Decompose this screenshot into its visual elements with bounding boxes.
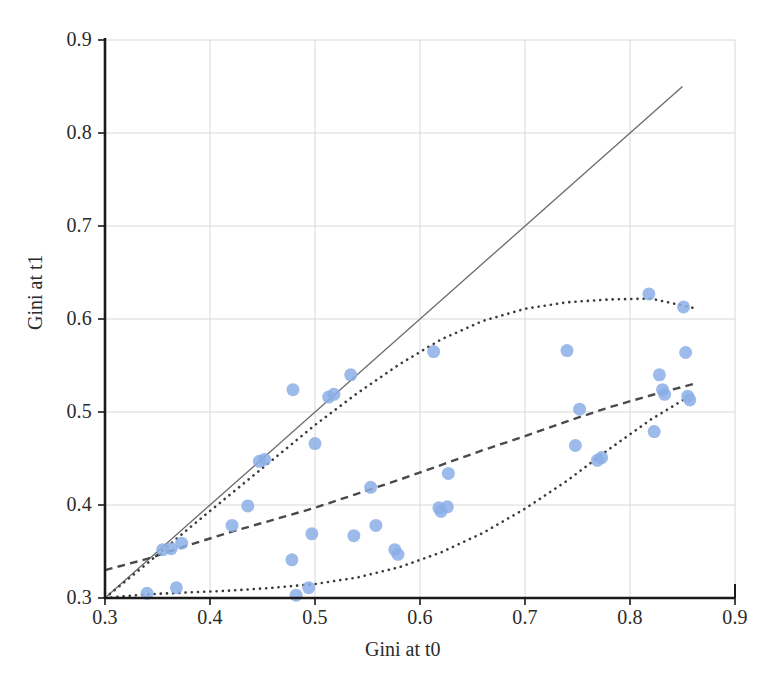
lower-band-curve (105, 397, 688, 598)
y-tick-label-4: 0.7 (40, 214, 92, 237)
x-axis-title: Gini at t0 (365, 638, 441, 661)
data-point (569, 439, 582, 452)
data-point (595, 451, 608, 464)
data-point (683, 393, 696, 406)
y-tick-label-3: 0.6 (40, 307, 92, 330)
data-point (369, 519, 382, 532)
data-point (573, 403, 586, 416)
data-point (679, 346, 692, 359)
plot-canvas (0, 0, 775, 683)
data-point (364, 481, 377, 494)
y-tick-label-1: 0.4 (40, 493, 92, 516)
data-point (226, 519, 239, 532)
data-points-group (141, 287, 697, 601)
data-point (309, 437, 322, 450)
x-tick-label-1: 0.4 (183, 606, 237, 629)
data-point (642, 287, 655, 300)
data-point (653, 368, 666, 381)
data-point (286, 383, 299, 396)
data-point (290, 589, 303, 602)
data-point (327, 388, 340, 401)
x-tick-label-3: 0.6 (393, 606, 447, 629)
identity-line (105, 87, 683, 599)
data-point (442, 467, 455, 480)
data-point (285, 553, 298, 566)
x-tick-label-2: 0.5 (288, 606, 342, 629)
data-point (258, 453, 271, 466)
trend-lines-group (105, 87, 693, 599)
data-point (175, 537, 188, 550)
y-tick-label-2: 0.5 (40, 400, 92, 423)
data-point (391, 548, 404, 561)
y-tick-label-6: 0.9 (40, 28, 92, 51)
data-point (302, 581, 315, 594)
x-tick-label-4: 0.7 (498, 606, 552, 629)
data-point (344, 368, 357, 381)
data-point (648, 425, 661, 438)
data-point (241, 499, 254, 512)
x-tick-label-6: 0.9 (708, 606, 762, 629)
data-point (170, 581, 183, 594)
y-axis-title: Gini at t1 (24, 254, 47, 330)
data-point (347, 529, 360, 542)
scatter-plot-figure: 0.3 0.4 0.5 0.6 0.7 0.8 0.9 0.3 0.4 0.5 … (0, 0, 775, 683)
x-tick-label-5: 0.8 (603, 606, 657, 629)
data-point (441, 500, 454, 513)
data-point (658, 388, 671, 401)
data-point (561, 344, 574, 357)
data-point (677, 300, 690, 313)
x-tick-label-0: 0.3 (78, 606, 132, 629)
data-point (427, 345, 440, 358)
y-tick-label-5: 0.8 (40, 121, 92, 144)
data-point (305, 527, 318, 540)
